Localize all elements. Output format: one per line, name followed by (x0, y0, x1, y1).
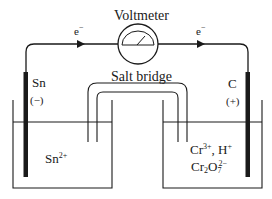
cathode-electrode-c (246, 72, 251, 177)
dichromate-cr: Cr (191, 159, 204, 174)
chromium-charge: 3+ (203, 142, 212, 151)
cathode-solution-line2: Cr2O72− (191, 160, 227, 175)
external-wire-left (26, 44, 118, 74)
salt-bridge-label: Salt bridge (111, 70, 172, 84)
electron-charge: − (201, 23, 206, 32)
dichromate-charge: 2− (218, 159, 227, 168)
anode-sign: (−) (30, 95, 44, 106)
hydrogen-ion: , H (212, 142, 228, 157)
voltmeter-label: Voltmeter (114, 9, 169, 23)
electron-arrow-right-icon (197, 40, 205, 48)
electron-charge: − (79, 23, 84, 32)
electron-arrow-left-icon (77, 40, 85, 48)
voltmeter-icon (118, 24, 158, 64)
hydrogen-charge: + (227, 142, 232, 151)
ion-charge: 2+ (59, 151, 68, 160)
salt-bridge (88, 83, 187, 142)
anode-solution-label: Sn2+ (45, 152, 67, 165)
cathode-solution-line1: Cr3+, H+ (190, 143, 232, 156)
dichromate-o: O (208, 159, 217, 174)
cathode-sign: (+) (226, 96, 240, 107)
ion-symbol: Sn (45, 151, 59, 166)
chromium-ion: Cr (190, 142, 203, 157)
electron-label-left: e− (74, 24, 83, 37)
cathode-symbol: C (228, 77, 237, 90)
anode-symbol: Sn (32, 76, 46, 89)
electron-label-right: e− (196, 24, 205, 37)
anode-electrode-sn (24, 72, 29, 177)
